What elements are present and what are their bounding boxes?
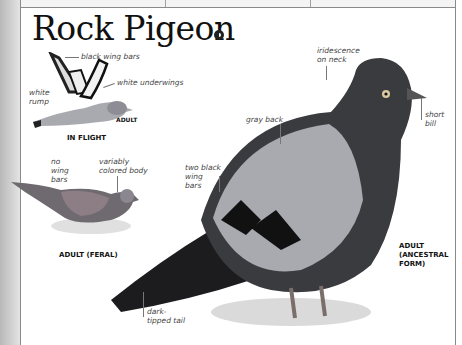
header-cell	[21, 0, 166, 7]
leader-line	[65, 57, 79, 58]
label-iridescence: iridescence on neck	[317, 46, 359, 64]
label-no-wing-bars: no wing bars	[51, 157, 79, 184]
caption-line: ADULT	[399, 242, 448, 251]
label-short-bill: short bill	[425, 110, 449, 128]
label-gray-back: gray back	[246, 115, 283, 124]
speaker-icon[interactable]	[214, 30, 224, 40]
label-dark-tipped-tail: dark-tipped tail	[147, 307, 187, 325]
label-two-black-wing-bars: two black wing bars	[185, 163, 221, 190]
leader-line	[326, 66, 327, 80]
leader-line	[421, 98, 422, 120]
leader-line	[280, 124, 281, 144]
header-strip	[21, 0, 455, 8]
label-white-rump: white rump	[29, 88, 51, 106]
page-title: Rock Pigeon	[32, 9, 235, 49]
leader-line	[143, 292, 144, 317]
main-caption: ADULT (ANCESTRAL FORM)	[399, 242, 448, 269]
field-guide-page: Rock Pigeon black wing bars white underw…	[20, 0, 456, 345]
header-cell	[166, 0, 311, 7]
rock-pigeon-illustration	[101, 50, 441, 345]
leader-line	[219, 176, 220, 192]
header-cell	[311, 0, 455, 7]
caption-line: FORM)	[399, 260, 448, 269]
caption-line: (ANCESTRAL	[399, 251, 448, 260]
